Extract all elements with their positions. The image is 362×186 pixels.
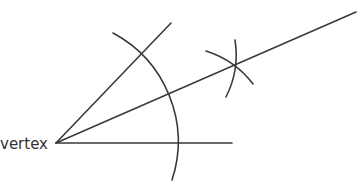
vertex-label: vertex [0, 135, 48, 153]
upper-ray [56, 23, 171, 143]
angle-bisector-diagram: vertex [0, 0, 362, 186]
main-arc [113, 33, 178, 180]
bisector-ray [56, 12, 356, 143]
